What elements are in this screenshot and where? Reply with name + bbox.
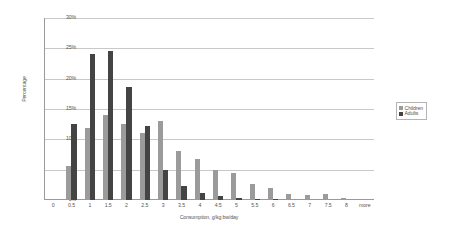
x-axis-tick-labels: 00.511.522.533.544.555.566.577.58more: [44, 202, 374, 208]
x-axis-tick-label: 1: [81, 202, 99, 208]
bar-group: [337, 18, 355, 200]
bar-adults: [218, 196, 223, 200]
chart-legend: Children Adults: [396, 102, 427, 120]
x-axis-tick-label: 0.5: [62, 202, 80, 208]
bar-children: [250, 184, 255, 200]
bar-adults: [163, 170, 168, 200]
x-axis-tick-label: 5.5: [246, 202, 264, 208]
bar-group: [81, 18, 99, 200]
x-axis-tick-label: 2.5: [136, 202, 154, 208]
bar-adults: [236, 198, 241, 200]
x-axis-tick-label: 2: [117, 202, 135, 208]
legend-swatch-adults-icon: [399, 112, 403, 116]
legend-swatch-children-icon: [399, 106, 403, 110]
legend-label-adults: Adults: [405, 111, 419, 116]
x-axis-tick-label: 5: [227, 202, 245, 208]
bar-children: [268, 188, 273, 200]
x-axis-tick-label: 4.5: [209, 202, 227, 208]
x-axis-tick-label: 3.5: [172, 202, 190, 208]
bar-group: [136, 18, 154, 200]
legend-item-adults: Adults: [399, 111, 423, 116]
bar-group: [44, 18, 62, 200]
bar-group: [209, 18, 227, 200]
bar-children: [286, 194, 291, 200]
bar-group: [191, 18, 209, 200]
bar-adults: [145, 126, 150, 200]
bar-group: [319, 18, 337, 200]
x-axis-tick-label: 8: [337, 202, 355, 208]
bar-adults: [108, 51, 113, 200]
bar-group: [356, 18, 374, 200]
bar-group: [154, 18, 172, 200]
bar-children: [231, 173, 236, 200]
x-axis-tick-label: more: [356, 202, 374, 208]
x-axis-tick-label: 7: [301, 202, 319, 208]
bar-children: [305, 195, 310, 200]
x-axis-tick-label: 4: [191, 202, 209, 208]
y-axis-title: Percentage: [21, 59, 27, 119]
bar-adults: [273, 199, 278, 200]
x-axis-title: Consumption, g/kg bw/day: [44, 214, 374, 220]
x-axis-tick-label: 7.5: [319, 202, 337, 208]
x-axis-tick-label: 6: [264, 202, 282, 208]
bar-group: [99, 18, 117, 200]
bar-group: [172, 18, 190, 200]
bar-children: [323, 194, 328, 200]
bar-adults: [200, 193, 205, 200]
bar-group: [62, 18, 80, 200]
bar-group: [246, 18, 264, 200]
bar-adults: [255, 199, 260, 200]
bar-children: [341, 198, 346, 200]
bar-group: [264, 18, 282, 200]
bar-adults: [90, 54, 95, 200]
chart-container: 0%5%10%15%20%25%30% Percentage 00.511.52…: [0, 0, 454, 241]
x-axis-tick-label: 0: [44, 202, 62, 208]
bar-group: [301, 18, 319, 200]
bar-adults: [126, 87, 131, 200]
bar-adults: [181, 186, 186, 200]
x-axis-tick-label: 1.5: [99, 202, 117, 208]
x-axis-tick-label: 3: [154, 202, 172, 208]
bar-adults: [71, 124, 76, 200]
bar-group: [282, 18, 300, 200]
x-axis-tick-label: 6.5: [282, 202, 300, 208]
bar-series-layer: [44, 18, 374, 200]
bar-group: [117, 18, 135, 200]
bar-group: [227, 18, 245, 200]
